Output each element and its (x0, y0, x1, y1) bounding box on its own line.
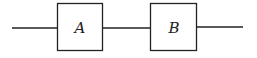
block-a-label: A (73, 19, 86, 37)
block-diagram: A B (0, 0, 257, 58)
block-b: B (151, 4, 197, 51)
block-a: A (58, 4, 103, 51)
block-b-label: B (167, 19, 179, 37)
